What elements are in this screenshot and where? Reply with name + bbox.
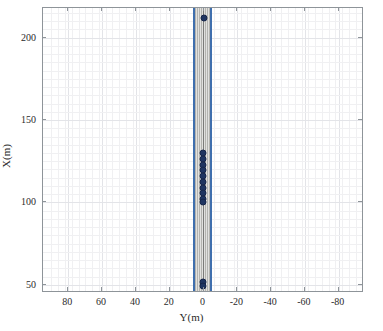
gridline-vertical: [153, 8, 154, 291]
gridline-vertical: [92, 8, 93, 291]
gridline-vertical: [281, 8, 282, 291]
y-axis-tick-right: [358, 119, 362, 120]
gridline-vertical: [119, 8, 120, 291]
gridline-vertical: [335, 8, 336, 291]
y-axis-tick-label: 150: [8, 114, 36, 125]
x-axis-title: Y(m): [0, 311, 383, 323]
y-axis-tick-label: 50: [8, 278, 36, 289]
gridline-vertical: [58, 8, 59, 291]
figure-canvas: 806040200-20-40-60-8050100150200 Y(m) X(…: [0, 0, 383, 331]
gridline-vertical: [220, 8, 221, 291]
y-axis-tick-right: [358, 284, 362, 285]
x-axis-tick-top: [67, 7, 68, 11]
gridline-vertical: [146, 8, 147, 291]
y-axis-tick: [42, 201, 46, 202]
x-axis-tick-top: [236, 7, 237, 11]
gridline-vertical: [237, 8, 238, 291]
gridline-vertical: [106, 8, 107, 291]
x-axis-tick-top: [270, 7, 271, 11]
x-axis-tick: [101, 287, 102, 291]
gridline-vertical: [241, 8, 242, 291]
gridline-vertical: [51, 8, 52, 291]
gridline-vertical: [271, 8, 272, 291]
gridline-vertical: [295, 8, 296, 291]
gridline-vertical: [275, 8, 276, 291]
gridline-vertical: [339, 8, 340, 291]
x-axis-tick-top: [101, 7, 102, 11]
gridline-vertical: [160, 8, 161, 291]
gridline-vertical: [68, 8, 69, 291]
data-point-marker: [200, 14, 207, 21]
x-axis-tick: [135, 287, 136, 291]
data-point-marker: [199, 199, 206, 206]
gridline-vertical: [349, 8, 350, 291]
x-axis-tick-top: [203, 7, 204, 11]
gridline-vertical: [85, 8, 86, 291]
gridline-vertical: [173, 8, 174, 291]
gridline-vertical: [126, 8, 127, 291]
gridline-vertical: [99, 8, 100, 291]
gridline-vertical: [302, 8, 303, 291]
gridline-vertical: [315, 8, 316, 291]
gridline-vertical: [322, 8, 323, 291]
gridline-vertical: [133, 8, 134, 291]
y-axis-tick: [42, 37, 46, 38]
x-axis-tick-top: [304, 7, 305, 11]
gridline-vertical: [79, 8, 80, 291]
gridline-vertical: [234, 8, 235, 291]
x-axis-tick: [304, 287, 305, 291]
gridline-vertical: [268, 8, 269, 291]
y-axis-tick: [42, 284, 46, 285]
x-axis-tick: [236, 287, 237, 291]
gridline-vertical: [227, 8, 228, 291]
gridline-vertical: [112, 8, 113, 291]
x-axis-tick-label: -80: [318, 296, 358, 307]
gridline-vertical: [329, 8, 330, 291]
plot-area: [42, 7, 363, 292]
gridline-vertical: [170, 8, 171, 291]
y-axis-title: X(m): [0, 126, 12, 186]
road-band-right-edge: [210, 7, 212, 292]
y-axis-tick-right: [358, 37, 362, 38]
x-axis-tick: [203, 287, 204, 291]
gridline-vertical: [180, 8, 181, 291]
road-band-left-edge: [193, 7, 195, 292]
gridline-vertical: [187, 8, 188, 291]
gridline-vertical: [72, 8, 73, 291]
gridline-vertical: [136, 8, 137, 291]
x-axis-tick: [270, 287, 271, 291]
gridline-vertical: [308, 8, 309, 291]
gridline-vertical: [254, 8, 255, 291]
gridline-vertical: [65, 8, 66, 291]
gridline-vertical: [139, 8, 140, 291]
gridline-vertical: [214, 8, 215, 291]
gridline-vertical: [356, 8, 357, 291]
y-axis-tick-label: 200: [8, 31, 36, 42]
x-axis-tick-top: [338, 7, 339, 11]
gridline-vertical: [305, 8, 306, 291]
x-axis-tick-top: [169, 7, 170, 11]
x-axis-tick: [67, 287, 68, 291]
gridline-vertical: [288, 8, 289, 291]
gridline-vertical: [102, 8, 103, 291]
x-axis-tick-top: [135, 7, 136, 11]
gridline-vertical: [247, 8, 248, 291]
x-axis-tick: [338, 287, 339, 291]
gridline-vertical: [166, 8, 167, 291]
y-axis-tick-label: 100: [8, 196, 36, 207]
gridline-vertical: [261, 8, 262, 291]
x-axis-tick: [169, 287, 170, 291]
y-axis-tick-right: [358, 201, 362, 202]
gridline-vertical: [342, 8, 343, 291]
y-axis-tick: [42, 119, 46, 120]
